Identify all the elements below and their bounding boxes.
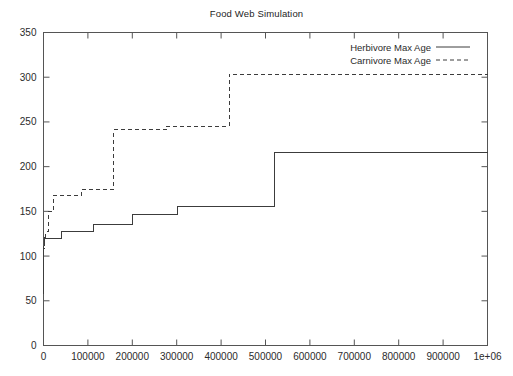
- series-line-1: [44, 75, 488, 294]
- x-tick-label: 400000: [204, 351, 238, 362]
- x-tick-label: 700000: [338, 351, 372, 362]
- y-tick-label: 300: [20, 72, 37, 83]
- chart-title: Food Web Simulation: [0, 8, 513, 19]
- legend-label-0: Herbivore Max Age: [350, 42, 431, 53]
- y-tick-label: 50: [25, 295, 37, 306]
- plot-area: 050100150200250300350 010000020000030000…: [0, 0, 513, 376]
- series-lines: [44, 75, 488, 294]
- y-tick-label: 0: [31, 340, 37, 351]
- x-tick-label: 900000: [426, 351, 460, 362]
- y-tick-label: 250: [20, 116, 37, 127]
- x-tick-label: 0: [41, 351, 47, 362]
- legend-label-1: Carnivore Max Age: [350, 55, 431, 66]
- y-tick-label: 350: [20, 27, 37, 38]
- x-tick-label: 1e+06: [473, 351, 502, 362]
- x-tick-label: 100000: [71, 351, 105, 362]
- x-axis-ticks: 0100000200000300000400000500000600000700…: [41, 33, 502, 362]
- x-tick-label: 300000: [160, 351, 194, 362]
- chart-container: Food Web Simulation 05010015020025030035…: [0, 0, 513, 376]
- x-tick-label: 200000: [116, 351, 150, 362]
- series-line-0: [44, 152, 488, 293]
- x-tick-label: 500000: [249, 351, 283, 362]
- y-tick-label: 200: [20, 161, 37, 172]
- x-tick-label: 800000: [382, 351, 416, 362]
- x-tick-label: 600000: [293, 351, 327, 362]
- legend: Herbivore Max AgeCarnivore Max Age: [350, 42, 470, 66]
- y-tick-label: 100: [20, 251, 37, 262]
- y-tick-label: 150: [20, 206, 37, 217]
